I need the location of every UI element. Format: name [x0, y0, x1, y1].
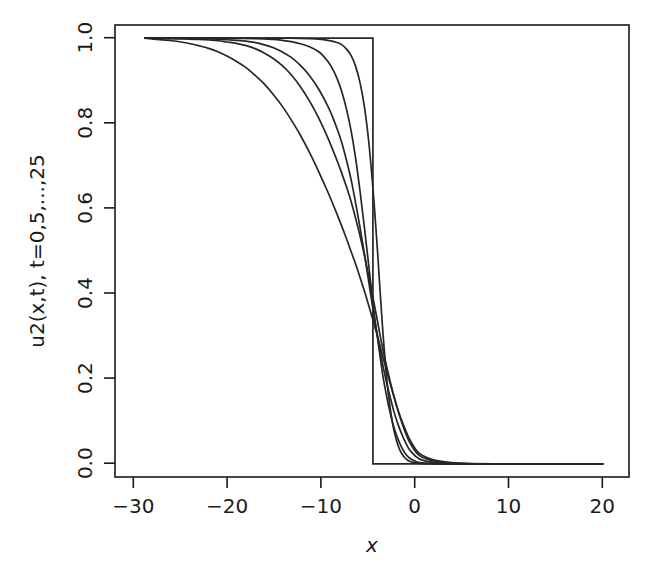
x-tick-label: 20 [590, 494, 615, 518]
x-tick-label: −30 [112, 494, 154, 518]
y-tick-label: 0.6 [73, 192, 97, 224]
y-tick-label: 0.4 [73, 277, 97, 309]
x-axis-title: x [365, 533, 378, 557]
x-tick-label: −20 [206, 494, 248, 518]
figure-background [0, 0, 656, 569]
chart-figure: −30 −20 −10 0 10 20 0.0 0.2 0.4 0.6 0.8 … [0, 0, 656, 569]
y-tick-label: 0.8 [73, 107, 97, 139]
x-tick-label: 10 [496, 494, 521, 518]
x-tick-label: −10 [300, 494, 342, 518]
plot-canvas: −30 −20 −10 0 10 20 0.0 0.2 0.4 0.6 0.8 … [0, 0, 656, 569]
y-tick-label: 1.0 [73, 22, 97, 54]
y-tick-label: 0.2 [73, 362, 97, 394]
y-tick-label: 0.0 [73, 447, 97, 479]
y-axis-title: u2(x,t), t=0,5,...,25 [25, 154, 49, 347]
x-tick-label: 0 [408, 494, 421, 518]
